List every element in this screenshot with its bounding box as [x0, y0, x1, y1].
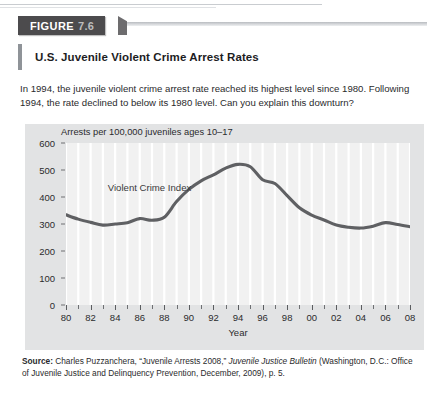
x-axis-tick-label: 00: [301, 312, 323, 323]
x-axis-tick-label: 84: [104, 312, 126, 323]
figure-intro-paragraph: In 1994, the juvenile violent crime arre…: [20, 82, 424, 109]
y-axis-tick: [61, 143, 65, 144]
x-axis-tick: [385, 305, 386, 310]
x-axis-tick: [398, 305, 399, 309]
x-axis-tick: [373, 305, 374, 309]
source-text-part1: Charles Puzzanchera, “Juvenile Arrests 2…: [53, 356, 229, 366]
x-axis-tick-label: 98: [276, 312, 298, 323]
top-rule-secondary: [0, 7, 216, 8]
x-axis-tick: [250, 305, 251, 309]
figure-banner-number: 7.6: [78, 20, 94, 32]
x-axis-tick: [78, 305, 79, 309]
x-axis-tick: [103, 305, 104, 309]
x-axis-tick: [226, 305, 227, 309]
x-axis-tick-label: 88: [153, 312, 175, 323]
figure-title: U.S. Juvenile Violent Crime Arrest Rates: [35, 51, 259, 63]
x-axis-tick: [152, 305, 153, 309]
source-label: Source:: [22, 356, 53, 366]
x-axis-tick: [177, 305, 178, 309]
chart-series-svg: [66, 143, 410, 305]
x-axis-tick: [140, 305, 141, 310]
y-axis-tick-label: 500: [25, 165, 55, 176]
x-axis-tick: [213, 305, 214, 310]
figure-title-row: U.S. Juvenile Violent Crime Arrest Rates: [18, 44, 420, 70]
top-rule-primary: [0, 4, 322, 5]
chart-plot-area: [66, 143, 410, 305]
x-axis-tick: [164, 305, 165, 310]
figure-banner-word: FIGURE: [30, 20, 74, 32]
x-axis-tick-label: 82: [80, 312, 102, 323]
x-axis-tick-label: 06: [374, 312, 396, 323]
y-axis-tick-label: 0: [25, 300, 55, 311]
chart-x-axis: 808284868890929496980002040608: [66, 305, 414, 345]
x-axis-tick: [189, 305, 190, 310]
x-axis-tick-label: 90: [178, 312, 200, 323]
y-axis-tick-label: 600: [25, 138, 55, 149]
y-axis-tick: [61, 170, 65, 171]
chart-axis-title-y: Arrests per 100,000 juveniles ages 10–17: [61, 127, 233, 137]
banner-fold-decoration: [118, 16, 127, 35]
chart-axis-title-x: Year: [66, 327, 410, 338]
x-axis-tick: [361, 305, 362, 310]
y-axis-tick-label: 400: [25, 192, 55, 203]
x-axis-tick: [263, 305, 264, 310]
x-axis-tick: [91, 305, 92, 310]
x-axis-tick: [299, 305, 300, 309]
title-accent-bar: [18, 44, 22, 70]
x-axis-tick: [66, 305, 67, 310]
y-axis-tick-label: 200: [25, 246, 55, 257]
figure-banner: FIGURE 7.6: [18, 16, 105, 35]
x-axis-tick-label: 02: [325, 312, 347, 323]
chart-panel: Arrests per 100,000 juveniles ages 10–17…: [25, 124, 424, 350]
y-axis-tick: [61, 278, 65, 279]
x-axis-tick: [410, 305, 411, 310]
x-axis-tick: [336, 305, 337, 310]
x-axis-tick-label: 92: [202, 312, 224, 323]
x-axis-tick-label: 94: [227, 312, 249, 323]
x-axis-tick: [312, 305, 313, 310]
banner-tail-decoration: [124, 22, 427, 26]
x-axis-tick-label: 86: [129, 312, 151, 323]
y-axis-tick: [61, 251, 65, 252]
decorative-top-rules: [0, 0, 438, 14]
y-axis-tick: [61, 305, 65, 306]
y-axis-tick: [61, 197, 65, 198]
y-axis-tick-label: 300: [25, 219, 55, 230]
x-axis-tick: [115, 305, 116, 310]
x-axis-tick: [349, 305, 350, 309]
x-axis-tick: [127, 305, 128, 309]
x-axis-tick: [238, 305, 239, 310]
source-citation: Source: Charles Puzzanchera, “Juvenile A…: [22, 356, 420, 379]
x-axis-tick: [287, 305, 288, 310]
x-axis-tick: [324, 305, 325, 309]
y-axis-tick: [61, 224, 65, 225]
source-publication-title: Juvenile Justice Bulletin: [229, 356, 317, 366]
x-axis-tick: [201, 305, 202, 309]
x-axis-tick-label: 80: [55, 312, 77, 323]
x-axis-tick-label: 08: [399, 312, 421, 323]
x-axis-tick: [275, 305, 276, 309]
y-axis-tick-label: 100: [25, 273, 55, 284]
x-axis-tick-label: 04: [350, 312, 372, 323]
series-annotation-label: Violent Crime Index: [108, 182, 192, 193]
x-axis-tick-label: 96: [252, 312, 274, 323]
